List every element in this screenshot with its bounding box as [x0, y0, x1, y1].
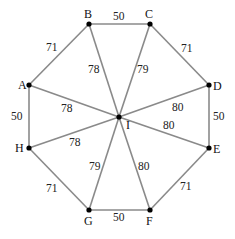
node-e: [206, 145, 211, 150]
node-label-c: C: [145, 7, 153, 21]
edge-c-d: [150, 24, 209, 85]
edge-weight-c-i: 79: [137, 63, 149, 75]
edge-weight-f-g: 50: [113, 211, 125, 223]
node-h: [26, 145, 31, 150]
edge-weight-h-a: 50: [11, 110, 23, 122]
weighted-graph-diagram: 71507150715071507878798080807978 ABCDEFG…: [0, 0, 235, 239]
edge-weight-b-c: 50: [113, 10, 125, 22]
edge-weight-d-e: 50: [213, 110, 225, 122]
edge-weight-b-i: 78: [88, 63, 100, 75]
edge-weight-c-d: 71: [181, 42, 193, 54]
node-c: [147, 21, 152, 26]
node-label-h: H: [15, 141, 24, 155]
node-d: [206, 82, 211, 87]
node-a: [26, 82, 31, 87]
edge-a-i: [29, 85, 119, 117]
node-label-d: D: [213, 79, 222, 93]
edge-a-b: [29, 24, 89, 85]
edge-weight-g-i: 79: [89, 160, 101, 172]
node-label-b: B: [84, 7, 92, 21]
node-label-g: G: [84, 214, 93, 228]
node-f: [147, 207, 152, 212]
edge-weight-e-f: 71: [180, 180, 192, 192]
node-label-i: I: [126, 118, 130, 132]
node-label-a: A: [18, 78, 27, 92]
edge-weight-d-i: 80: [172, 101, 184, 113]
node-g: [86, 207, 91, 212]
edge-g-h: [29, 148, 89, 210]
edge-weight-a-b: 71: [46, 41, 58, 53]
edge-weight-e-i: 80: [163, 119, 175, 131]
edge-weight-f-i: 80: [138, 160, 150, 172]
edge-weight-a-i: 78: [61, 102, 73, 114]
node-i: [116, 114, 121, 119]
node-label-f: F: [146, 214, 153, 228]
edge-d-i: [119, 85, 209, 117]
edge-e-f: [150, 148, 209, 210]
edge-weight-h-i: 78: [69, 136, 81, 148]
node-label-e: E: [213, 142, 220, 156]
edge-weight-g-h: 71: [46, 182, 58, 194]
node-b: [86, 21, 91, 26]
